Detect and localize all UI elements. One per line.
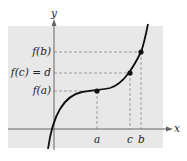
y-axis-label: y [51, 8, 57, 19]
x-axis-arrow-icon [166, 127, 173, 132]
label-fb: f(b) [32, 46, 51, 57]
ivt-figure: y x f(b) f(c) = d f(a) a c b [0, 0, 187, 161]
y-axis-arrow-icon [52, 19, 57, 26]
label-fa: f(a) [33, 85, 51, 96]
x-axis-label: x [174, 123, 180, 134]
point-a [94, 88, 99, 93]
point-b [138, 49, 143, 54]
point-c [127, 70, 132, 75]
label-c: c [127, 134, 133, 145]
label-a: a [94, 134, 100, 145]
label-b: b [138, 134, 145, 145]
label-fc-equals-d: f(c) = d [11, 67, 51, 78]
